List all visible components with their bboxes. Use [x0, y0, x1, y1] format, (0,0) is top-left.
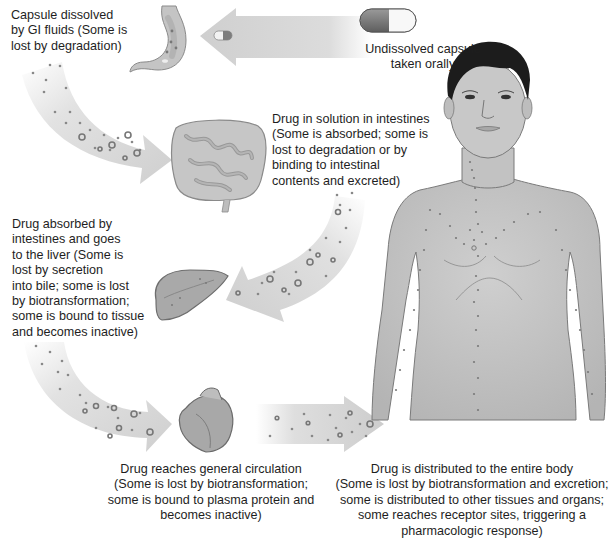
arrow-capsule-to-stomach — [200, 8, 372, 66]
arrow-intestines-to-liver — [226, 192, 365, 322]
label-stomach: Capsule dissolved by GI fluids (Some is … — [11, 8, 127, 54]
human-body-icon — [372, 42, 606, 420]
arrow-stomach-to-intestines — [22, 62, 172, 184]
capsule-icon — [360, 9, 416, 32]
intestines-icon — [172, 120, 267, 212]
arrow-liver-to-circulation — [24, 342, 172, 452]
label-capsule: Undissolved capsule taken orally — [349, 42, 497, 73]
capsule-small-icon — [214, 31, 232, 40]
liver-icon — [155, 270, 228, 320]
arrow-circulation-to-body — [256, 396, 384, 452]
label-circulation: Drug reaches general circulation (Some i… — [106, 462, 316, 524]
stomach-icon — [130, 6, 186, 72]
label-intestines: Drug in solution in intestines (Some is … — [272, 112, 430, 189]
heart-icon — [179, 388, 233, 452]
label-liver: Drug absorbed by intestines and goes to … — [12, 217, 144, 340]
label-body: Drug is distributed to the entire body (… — [334, 462, 610, 539]
